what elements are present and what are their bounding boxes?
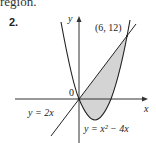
graph-figure <box>0 0 156 143</box>
y-axis-arrow-icon <box>77 16 82 22</box>
origin-point <box>78 98 80 100</box>
x-axis-arrow-icon <box>142 97 148 102</box>
parabola-equation-label: y = x² − 4x <box>84 123 129 134</box>
x-axis-label: x <box>144 103 148 114</box>
origin-label: 0 <box>69 87 74 98</box>
intersection-point <box>126 35 128 37</box>
line-equation-label: y = 2x <box>28 107 54 118</box>
shaded-region <box>79 36 127 120</box>
y-axis-label: y <box>68 13 72 24</box>
point-label: (6, 12) <box>95 22 122 33</box>
